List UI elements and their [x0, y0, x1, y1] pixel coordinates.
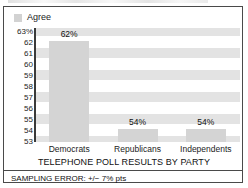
bar-value-label: 62% [49, 30, 89, 39]
bar-value-label: 54% [186, 118, 226, 127]
sampling-error-note: SAMPLING ERROR: +/− 7% pts [11, 174, 126, 184]
y-axis-tick: 59 [24, 72, 33, 80]
bar-independents[interactable] [186, 129, 226, 142]
bar-slot: 54% [186, 28, 226, 142]
cropped-text-sliver [8, 0, 208, 3]
chart-legend: Agree [14, 13, 51, 22]
cropped-text-remnant [0, 0, 248, 4]
bar-slot: 62% [49, 28, 89, 142]
y-axis-tick: 62 [24, 39, 33, 47]
legend-swatch-icon [14, 14, 22, 22]
poll-chart-screenshot: Agree 63%62616059585756555453 62%54%54% … [0, 0, 248, 188]
y-axis-tick: 55 [24, 116, 33, 124]
y-axis-tick: 61 [24, 50, 33, 58]
y-axis-tick: 57 [24, 94, 33, 102]
y-axis-tick: 58 [24, 83, 33, 91]
y-axis-tick-labels: 63%62616059585756555453 [8, 28, 33, 142]
x-axis-label-independents: Independents [166, 144, 246, 154]
footnote-divider [4, 170, 242, 171]
bar-democrats[interactable] [49, 41, 89, 142]
y-axis-tick: 56 [24, 105, 33, 113]
chart-plot-region: 63%62616059585756555453 62%54%54% [8, 28, 240, 142]
bar-republicans[interactable] [118, 129, 158, 142]
legend-label-agree: Agree [27, 13, 51, 22]
bar-value-label: 54% [118, 118, 158, 127]
chart-title: TELEPHONE POLL RESULTS BY PARTY [4, 157, 244, 168]
bar-slot: 54% [118, 28, 158, 142]
x-axis-category-labels: DemocratsRepublicansIndependents [35, 144, 240, 156]
y-axis-tick: 60 [24, 61, 33, 69]
chart-card: Agree 63%62616059585756555453 62%54%54% … [3, 6, 243, 183]
y-axis-tick: 63% [17, 28, 33, 36]
y-axis-tick: 54 [24, 127, 33, 135]
bar-group: 62%54%54% [35, 28, 240, 142]
